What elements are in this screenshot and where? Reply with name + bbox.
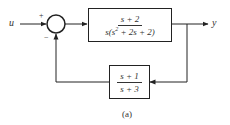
forward-numerator: s + 2 — [118, 14, 143, 26]
feedback-transfer-function-block: s + 1 s + 3 — [109, 65, 150, 99]
forward-denominator-prefix: s(s — [105, 27, 115, 37]
figure-caption: (a) — [122, 109, 132, 119]
summing-junction — [47, 15, 65, 33]
minus-sign: − — [44, 34, 49, 42]
forward-denominator-suffix: + 2s + 2) — [118, 27, 155, 37]
input-label: u — [9, 18, 14, 28]
forward-transfer-function-block: s + 2 s(s2 + 2s + 2) — [88, 8, 172, 42]
feedback-transfer-function: s + 1 s + 3 — [117, 71, 142, 94]
feedback-numerator: s + 1 — [117, 71, 142, 83]
feedback-denominator: s + 3 — [117, 83, 142, 94]
forward-transfer-function: s + 2 s(s2 + 2s + 2) — [102, 14, 158, 37]
output-label: y — [212, 18, 216, 28]
forward-denominator: s(s2 + 2s + 2) — [102, 26, 158, 37]
plus-sign: + — [39, 12, 44, 20]
